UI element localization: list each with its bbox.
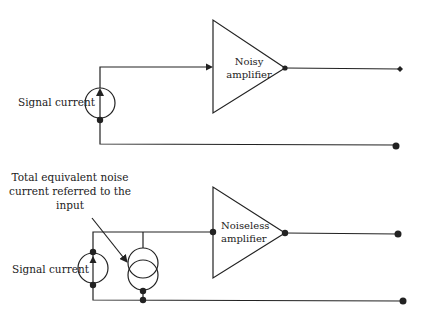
node-dot <box>210 229 216 235</box>
noise-label-line-3: input <box>56 199 85 211</box>
bottom-output-terminal <box>395 231 402 238</box>
node-dot <box>140 288 146 294</box>
arrow-up-icon <box>96 88 104 96</box>
top-ground-terminal <box>393 143 400 150</box>
top-input-wire <box>100 67 208 88</box>
top-circuit: Noisy amplifier Signal current <box>18 20 403 150</box>
node-dot <box>90 282 96 288</box>
noiseless-amplifier-label-2: amplifier <box>221 233 267 244</box>
noise-label-pointer-arrow <box>92 218 127 262</box>
noisy-amplifier-label-2: amplifier <box>226 69 272 80</box>
input-arrow-icon <box>206 64 213 71</box>
bottom-output-wire <box>285 233 398 234</box>
noiseless-amplifier-label-1: Noiseless <box>221 220 269 231</box>
top-output-wire <box>285 68 400 69</box>
node-dot <box>140 297 146 303</box>
noise-current-source <box>128 232 158 303</box>
bottom-ground-wire <box>93 285 403 301</box>
bottom-ground-terminal <box>400 298 407 305</box>
noisy-amplifier-label-1: Noisy <box>235 56 264 67</box>
top-ground-wire <box>100 120 396 145</box>
bottom-circuit: Total equivalent noise current referred … <box>9 171 406 305</box>
top-output-terminal <box>397 66 403 72</box>
bottom-signal-current-label: Signal current <box>12 263 90 275</box>
noise-label-line-1: Total equivalent noise <box>12 171 129 183</box>
noise-label-line-2: current referred to the <box>9 185 131 197</box>
arrow-up-icon <box>90 256 97 263</box>
noise-model-diagram: Noisy amplifier Signal current Total equ… <box>0 0 424 317</box>
node-dot <box>90 249 96 255</box>
top-signal-current-label: Signal current <box>18 96 96 108</box>
